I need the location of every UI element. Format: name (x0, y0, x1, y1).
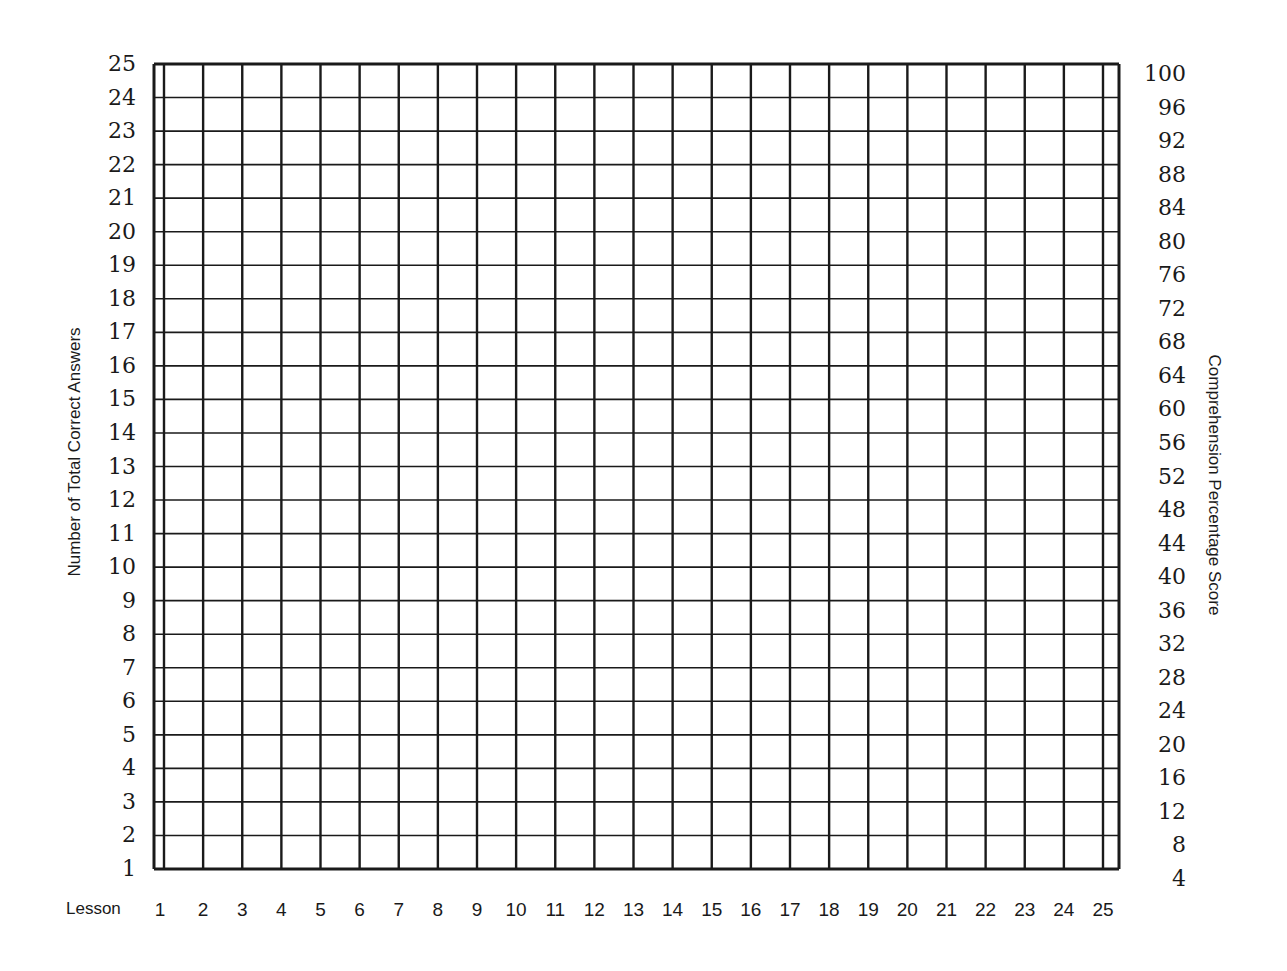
x-tick-label: 7 (393, 900, 404, 919)
left-tick-label: 10 (96, 556, 136, 578)
right-tick-label: 56 (1138, 432, 1186, 454)
right-tick-label: 12 (1138, 801, 1186, 823)
right-tick-label: 16 (1138, 767, 1186, 789)
right-tick-label: 84 (1138, 197, 1186, 219)
right-tick-label: 64 (1138, 365, 1186, 387)
left-tick-label: 15 (96, 388, 136, 410)
left-tick-label: 7 (96, 657, 136, 679)
left-tick-label: 1 (96, 858, 136, 880)
x-tick-label: 8 (433, 900, 444, 919)
left-tick-label: 14 (96, 422, 136, 444)
right-tick-label: 28 (1138, 667, 1186, 689)
left-tick-label: 19 (96, 254, 136, 276)
x-tick-label: 11 (545, 900, 565, 919)
left-tick-label: 18 (96, 288, 136, 310)
x-tick-label: 22 (975, 900, 996, 919)
x-tick-label: 18 (819, 900, 840, 919)
left-tick-label: 20 (96, 221, 136, 243)
x-tick-label: 5 (315, 900, 326, 919)
right-tick-label: 92 (1138, 130, 1186, 152)
right-tick-label: 72 (1138, 298, 1186, 320)
x-tick-label: 4 (276, 900, 287, 919)
right-tick-label: 32 (1138, 633, 1186, 655)
x-tick-label: 10 (506, 900, 527, 919)
x-tick-label: 6 (354, 900, 365, 919)
right-tick-label: 48 (1138, 499, 1186, 521)
x-axis-title: Lesson (66, 900, 121, 917)
x-tick-label: 13 (623, 900, 644, 919)
left-tick-label: 25 (96, 53, 136, 75)
x-tick-label: 17 (779, 900, 800, 919)
right-tick-label: 4 (1138, 868, 1186, 890)
progress-chart: Number of Total Correct Answers Comprehe… (0, 0, 1287, 971)
right-tick-label: 80 (1138, 231, 1186, 253)
left-tick-label: 24 (96, 87, 136, 109)
right-axis-title: Comprehension Percentage Score (1204, 355, 1224, 616)
x-tick-label: 9 (472, 900, 483, 919)
right-tick-label: 96 (1138, 97, 1186, 119)
x-tick-label: 14 (662, 900, 683, 919)
x-tick-label: 2 (198, 900, 209, 919)
left-tick-label: 22 (96, 154, 136, 176)
x-tick-label: 20 (897, 900, 918, 919)
left-tick-label: 23 (96, 120, 136, 142)
right-tick-label: 76 (1138, 264, 1186, 286)
right-tick-label: 40 (1138, 566, 1186, 588)
left-tick-label: 17 (96, 321, 136, 343)
right-tick-label: 36 (1138, 600, 1186, 622)
left-tick-label: 4 (96, 757, 136, 779)
x-tick-label: 19 (858, 900, 879, 919)
right-tick-label: 44 (1138, 533, 1186, 555)
left-tick-label: 11 (96, 523, 136, 545)
left-tick-label: 6 (96, 690, 136, 712)
right-tick-label: 60 (1138, 398, 1186, 420)
right-tick-label: 100 (1138, 63, 1186, 85)
x-tick-label: 23 (1014, 900, 1035, 919)
left-tick-label: 8 (96, 623, 136, 645)
x-tick-label: 21 (936, 900, 957, 919)
left-tick-label: 13 (96, 456, 136, 478)
left-tick-label: 5 (96, 724, 136, 746)
left-tick-label: 9 (96, 590, 136, 612)
left-tick-label: 16 (96, 355, 136, 377)
right-tick-label: 68 (1138, 331, 1186, 353)
x-tick-label: 24 (1053, 900, 1074, 919)
right-tick-label: 88 (1138, 164, 1186, 186)
left-tick-label: 3 (96, 791, 136, 813)
x-tick-label: 15 (701, 900, 722, 919)
right-tick-label: 24 (1138, 700, 1186, 722)
x-tick-label: 3 (237, 900, 248, 919)
x-tick-label: 25 (1092, 900, 1113, 919)
left-axis-title: Number of Total Correct Answers (65, 327, 85, 576)
left-tick-label: 2 (96, 824, 136, 846)
right-tick-label: 8 (1138, 834, 1186, 856)
x-tick-label: 12 (584, 900, 605, 919)
chart-grid (0, 0, 1287, 971)
right-tick-label: 20 (1138, 734, 1186, 756)
x-tick-label: 16 (740, 900, 761, 919)
left-tick-label: 21 (96, 187, 136, 209)
x-tick-label: 1 (155, 900, 166, 919)
right-tick-label: 52 (1138, 466, 1186, 488)
left-tick-label: 12 (96, 489, 136, 511)
